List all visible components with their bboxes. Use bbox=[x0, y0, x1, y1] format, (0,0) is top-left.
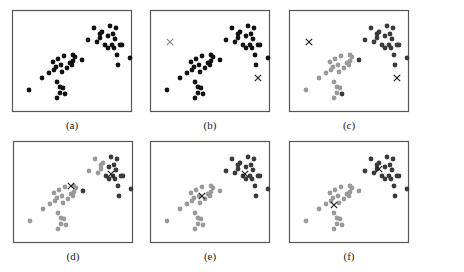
data-point bbox=[194, 57, 199, 62]
data-point bbox=[251, 168, 256, 173]
data-point bbox=[391, 157, 396, 162]
data-point bbox=[251, 37, 256, 42]
data-point bbox=[193, 96, 198, 101]
scatter-plot bbox=[150, 10, 270, 112]
data-point bbox=[107, 165, 112, 170]
data-point bbox=[363, 38, 368, 43]
data-point bbox=[111, 32, 116, 37]
data-point bbox=[116, 184, 121, 189]
data-point bbox=[100, 30, 105, 35]
data-point bbox=[347, 63, 352, 68]
data-point bbox=[253, 53, 258, 58]
scatter-plot bbox=[150, 141, 270, 243]
data-point bbox=[129, 187, 134, 192]
data-point bbox=[112, 163, 117, 168]
data-point bbox=[377, 30, 382, 35]
data-point bbox=[71, 194, 76, 199]
data-point bbox=[250, 46, 255, 51]
data-point bbox=[333, 57, 338, 62]
data-point bbox=[192, 196, 197, 201]
data-point bbox=[238, 161, 243, 166]
data-point bbox=[199, 86, 204, 91]
data-point bbox=[48, 202, 53, 207]
data-point bbox=[380, 174, 385, 179]
data-point bbox=[51, 60, 56, 65]
data-point bbox=[60, 70, 65, 75]
data-point bbox=[65, 66, 70, 71]
data-point bbox=[193, 211, 198, 216]
data-point bbox=[55, 80, 60, 85]
data-point bbox=[335, 222, 340, 227]
data-point bbox=[405, 187, 410, 192]
data-point bbox=[324, 71, 329, 76]
data-point bbox=[249, 163, 254, 168]
data-point bbox=[59, 63, 64, 68]
data-point bbox=[357, 58, 362, 63]
data-point bbox=[113, 177, 118, 182]
data-point bbox=[63, 185, 68, 190]
data-point bbox=[61, 201, 66, 206]
scatter-plot bbox=[289, 141, 409, 243]
data-point bbox=[64, 223, 69, 228]
data-point bbox=[254, 63, 259, 68]
data-point bbox=[317, 76, 322, 81]
data-point bbox=[116, 63, 121, 68]
data-point bbox=[218, 58, 223, 63]
data-point bbox=[108, 24, 113, 29]
data-point bbox=[391, 26, 396, 31]
data-point bbox=[230, 26, 235, 31]
data-point bbox=[388, 163, 393, 168]
panel-caption: (a) bbox=[12, 119, 132, 131]
data-point bbox=[337, 201, 342, 206]
data-point bbox=[62, 217, 67, 222]
data-point bbox=[246, 24, 251, 29]
data-point bbox=[66, 197, 71, 202]
data-point bbox=[266, 56, 271, 61]
data-point bbox=[336, 63, 341, 68]
scatter-plot bbox=[12, 10, 132, 112]
data-point bbox=[60, 194, 65, 199]
data-point bbox=[390, 168, 395, 173]
data-point bbox=[198, 70, 203, 75]
data-point bbox=[392, 53, 397, 58]
centroid-marker-icon bbox=[331, 202, 337, 208]
data-point bbox=[55, 96, 60, 101]
data-point bbox=[80, 58, 85, 63]
data-point bbox=[233, 171, 238, 176]
data-point bbox=[58, 91, 63, 96]
panel-caption: (c) bbox=[289, 119, 409, 131]
data-point bbox=[339, 185, 344, 190]
data-point bbox=[104, 174, 109, 179]
data-point bbox=[115, 157, 120, 162]
data-point bbox=[47, 71, 52, 76]
data-point bbox=[200, 54, 205, 59]
data-point bbox=[208, 63, 213, 68]
data-point bbox=[63, 92, 68, 97]
data-point bbox=[244, 34, 249, 39]
data-point bbox=[383, 34, 388, 39]
panel-caption: (d) bbox=[13, 250, 133, 262]
data-point bbox=[224, 38, 229, 43]
data-point bbox=[96, 171, 101, 176]
data-point bbox=[304, 219, 309, 224]
data-point bbox=[86, 38, 91, 43]
data-point bbox=[357, 189, 362, 194]
data-point bbox=[120, 43, 125, 48]
data-point bbox=[249, 32, 254, 37]
data-point bbox=[56, 227, 61, 232]
data-point bbox=[193, 227, 198, 232]
data-point bbox=[258, 174, 263, 179]
data-point bbox=[40, 76, 45, 81]
data-point bbox=[350, 55, 355, 60]
data-point bbox=[383, 165, 388, 170]
data-point bbox=[56, 57, 61, 62]
data-point bbox=[332, 211, 337, 216]
panel-b bbox=[150, 10, 270, 112]
data-point bbox=[196, 222, 201, 227]
data-point bbox=[372, 40, 377, 45]
data-point bbox=[197, 63, 202, 68]
data-point bbox=[193, 80, 198, 85]
data-point bbox=[389, 46, 394, 51]
panel-a bbox=[12, 10, 132, 112]
data-point bbox=[363, 169, 368, 174]
